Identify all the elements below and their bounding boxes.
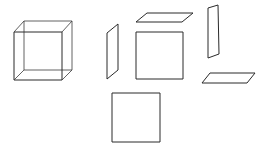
diagram-canvas (0, 0, 265, 151)
cube-depth-edge (14, 70, 24, 80)
right-face (208, 5, 219, 58)
front-face (136, 32, 183, 79)
top-face (136, 13, 193, 22)
cube-depth-edge (62, 70, 72, 80)
back-face (112, 93, 160, 142)
exploded-faces (107, 5, 255, 142)
bottom-face (202, 73, 255, 83)
cube-depth-edge (62, 21, 72, 32)
wireframe-cube (14, 21, 72, 80)
left-face (107, 24, 118, 79)
cube-depth-edge (14, 21, 24, 32)
